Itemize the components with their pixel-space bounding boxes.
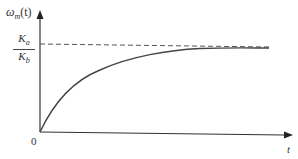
asymptote-denominator: Kb	[13, 51, 35, 65]
numerator-symbol: K	[18, 32, 25, 44]
x-axis-label: t	[287, 144, 290, 155]
x-axis-arrow-icon	[284, 131, 293, 138]
asymptote-label: Ka Kb	[13, 33, 35, 65]
numerator-subscript: a	[26, 38, 30, 47]
asymptote-line	[40, 44, 269, 47]
denominator-subscript: b	[26, 56, 30, 65]
x-axis	[40, 132, 284, 135]
origin-label: 0	[31, 136, 37, 147]
y-axis-arrow-icon	[37, 10, 44, 19]
y-label-arg: (t)	[20, 5, 31, 19]
response-plot	[0, 0, 298, 159]
response-curve	[40, 48, 269, 132]
denominator-symbol: K	[18, 50, 25, 62]
asymptote-numerator: Ka	[13, 33, 35, 48]
y-axis-label: ωm(t)	[6, 6, 32, 21]
